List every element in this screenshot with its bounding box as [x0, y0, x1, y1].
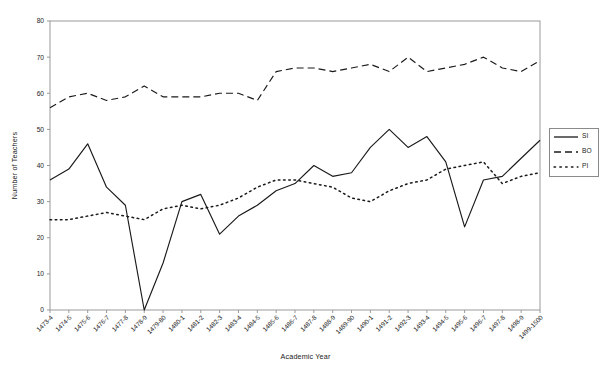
y-tick-label: 10 — [37, 270, 45, 277]
x-tick-label: 1495-6 — [449, 313, 468, 332]
x-tick-label: 1494-5 — [431, 313, 450, 332]
legend-line-dashed-icon — [553, 148, 579, 156]
chart-figure: Number of Teachers 010203040506070801473… — [0, 0, 611, 378]
legend-item-pi: PI — [550, 159, 598, 174]
series-line-pi — [50, 162, 540, 220]
x-tick-label: 1486-7 — [280, 313, 299, 332]
x-tick-label: 1496-7 — [468, 313, 487, 332]
x-tick-label: 1475-6 — [73, 313, 92, 332]
x-tick-label: 1487-8 — [299, 313, 318, 332]
legend-item-si: SI — [550, 129, 598, 144]
x-tick-label: 1477-8 — [110, 313, 129, 332]
legend-line-dotted-icon — [553, 163, 579, 171]
x-tick-label: 1480-1 — [167, 313, 186, 332]
x-tick-label: 1490-1 — [355, 313, 374, 332]
y-tick-label: 70 — [37, 54, 45, 61]
x-tick-label: 1497-8 — [487, 313, 506, 332]
x-tick-label: 1482-3 — [204, 313, 223, 332]
legend-label-pi: PI — [582, 163, 588, 170]
y-tick-label: 60 — [37, 90, 45, 97]
plot-border — [50, 21, 540, 310]
x-tick-label: 1491-2 — [374, 313, 393, 332]
y-tick-label: 80 — [37, 17, 45, 24]
legend-line-solid-icon — [553, 133, 579, 141]
series-line-bo — [50, 57, 540, 108]
x-tick-label: 1473-4 — [35, 313, 54, 332]
y-tick-label: 40 — [37, 162, 45, 169]
chart-legend: SI BO PI — [549, 128, 599, 177]
x-tick-label: 1476-7 — [91, 313, 110, 332]
series-line-si — [50, 129, 540, 310]
x-tick-label: 1485-6 — [261, 313, 280, 332]
x-tick-label: 1481-2 — [186, 313, 205, 332]
x-tick-label: 1493-4 — [412, 313, 431, 332]
x-tick-label: 1492-3 — [393, 313, 412, 332]
x-tick-label: 1474-5 — [54, 313, 73, 332]
plot-canvas: 010203040506070801473-41474-51475-61476-… — [0, 0, 611, 378]
x-axis-title: Academic Year — [0, 352, 611, 361]
legend-label-si: SI — [582, 133, 588, 140]
y-tick-label: 50 — [37, 126, 45, 133]
x-tick-label: 1484-5 — [242, 313, 261, 332]
x-tick-label: 1489-90 — [334, 313, 356, 335]
y-tick-label: 20 — [37, 234, 45, 241]
x-tick-label: 1483-4 — [223, 313, 242, 332]
legend-item-bo: BO — [550, 144, 598, 159]
x-tick-label: 1479-80 — [145, 313, 167, 335]
y-tick-label: 0 — [40, 306, 44, 313]
y-tick-label: 30 — [37, 198, 45, 205]
legend-label-bo: BO — [582, 148, 592, 155]
